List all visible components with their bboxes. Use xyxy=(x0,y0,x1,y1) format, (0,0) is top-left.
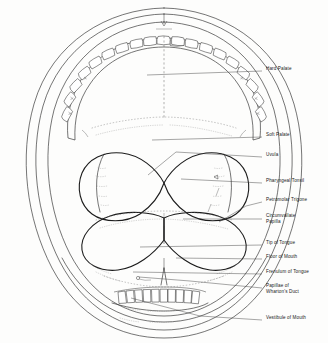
leader-lines xyxy=(131,71,262,320)
lower-incisors xyxy=(112,287,208,311)
label-circumvallate-papilla: Circumvallate Papilla xyxy=(266,213,295,224)
label-uvula: Uvula xyxy=(266,152,278,158)
label-pharyngeal-tonsil: Pharyngeal Tonsil xyxy=(266,178,304,184)
cheek-contour xyxy=(48,22,280,316)
label-vestibule-of-mouth: Vestibule of Mouth xyxy=(266,315,306,321)
label-frenulum-of-tongue: Frenulum of Tongue xyxy=(266,269,309,275)
oral-cavity-diagram-page: .ln { fill:none; stroke:#2b2b2b; stroke-… xyxy=(0,0,328,343)
label-floor-of-mouth: Floor of Mouth xyxy=(266,254,297,260)
label-soft-palate: Soft Palate xyxy=(266,132,290,138)
label-papillae-whartons-duct: Papillae of Wharton's Duct xyxy=(266,283,299,294)
tongue-body xyxy=(79,153,249,271)
label-tip-of-tongue: Tip of Tongue xyxy=(266,240,295,246)
label-petromolar-trigone: Petromolar Trigone xyxy=(266,197,307,203)
outer-lip-contour xyxy=(26,8,302,338)
soft-palate-region xyxy=(82,117,246,137)
inner-lip-contour xyxy=(36,14,292,330)
label-hard-palate: Hard Palate xyxy=(266,66,292,72)
midline-top-marker xyxy=(156,14,172,29)
